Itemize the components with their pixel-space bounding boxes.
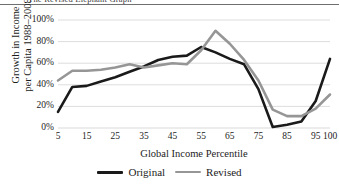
legend-item-original[interactable]: Original xyxy=(97,166,165,178)
legend-swatch-original xyxy=(97,171,123,174)
x-tick-label: 45 xyxy=(168,131,178,141)
x-axis-title: Global Income Percentile xyxy=(58,148,330,159)
x-axis-tick-labels: 5152535455565758595100 xyxy=(58,131,330,145)
x-tick-label: 95 xyxy=(311,131,321,141)
y-tick-label: 60% xyxy=(20,58,54,68)
y-tick-label: 80% xyxy=(20,37,54,47)
chart-legend: Original Revised xyxy=(0,166,339,178)
y-tick-label: 40% xyxy=(20,80,54,90)
x-tick-label: 25 xyxy=(111,131,121,141)
x-tick-label: 55 xyxy=(196,131,206,141)
x-tick-label: 65 xyxy=(225,131,235,141)
y-gridlines xyxy=(58,20,330,128)
series-lines xyxy=(58,31,330,127)
plot-area xyxy=(58,20,330,128)
y-tick-label: 0% xyxy=(20,123,54,133)
elephant-graph-figure: The Revised Elephant Graph Growth in Inc… xyxy=(0,0,339,187)
legend-swatch-revised xyxy=(175,171,201,174)
legend-label-revised: Revised xyxy=(206,166,241,178)
y-axis-tick-labels: 100%80%60%40%20%0% xyxy=(18,0,54,187)
series-line-revised xyxy=(58,31,330,116)
legend-item-revised[interactable]: Revised xyxy=(175,166,241,178)
legend-label-original: Original xyxy=(128,166,165,178)
chart-svg xyxy=(58,20,330,128)
x-tick-label: 5 xyxy=(56,131,61,141)
x-tick-label: 35 xyxy=(139,131,149,141)
x-tick-label: 15 xyxy=(82,131,92,141)
y-tick-label: 20% xyxy=(20,101,54,111)
x-tick-label: 85 xyxy=(282,131,292,141)
y-tick-label: 100% xyxy=(20,15,54,25)
x-tick-label: 75 xyxy=(254,131,264,141)
x-tick-label: 100 xyxy=(323,131,337,141)
